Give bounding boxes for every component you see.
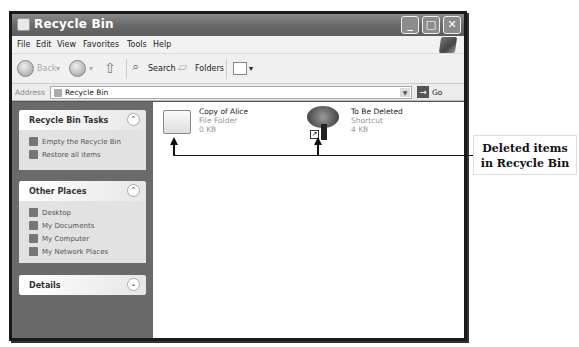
back-dropdown-icon[interactable]: ▾ <box>56 64 60 73</box>
panel-header[interactable]: Details ⌄ <box>19 275 146 295</box>
expand-chevron-icon[interactable]: ⌄ <box>127 278 140 291</box>
explorer-window: Recycle Bin _ □ ✕ File Edit View Favorit… <box>9 11 467 341</box>
restore-icon <box>29 150 38 159</box>
place-desktop[interactable]: Desktop <box>19 207 146 220</box>
menu-help[interactable]: Help <box>153 40 171 49</box>
task-restore-all-items[interactable]: Restore all items <box>19 149 146 162</box>
address-value: Recycle Bin <box>65 88 108 97</box>
annotation-line <box>173 155 473 156</box>
panel-title: Recycle Bin Tasks <box>29 116 108 125</box>
menu-favorites[interactable]: Favorites <box>83 40 119 49</box>
recycle-bin-icon <box>17 18 30 31</box>
item-name: To Be Deleted <box>351 107 403 116</box>
item-size: 4 KB <box>351 125 403 134</box>
toolbar-separator <box>126 59 127 79</box>
go-arrow-icon[interactable]: → <box>417 86 429 98</box>
annotation-arrow-icon <box>314 137 322 145</box>
annotation-arrow-icon <box>170 137 178 145</box>
folders-button[interactable]: Folders <box>195 64 224 73</box>
folders-icon[interactable]: ▱ <box>178 60 187 74</box>
computer-icon <box>29 234 38 243</box>
toolbar-separator <box>226 59 227 79</box>
toolbar: Back ▾ ▾ ⇧ ⌕ Search ▱ Folders ▾ <box>12 54 464 84</box>
windows-logo-icon <box>439 37 457 53</box>
panel-header[interactable]: Recycle Bin Tasks ⌃ <box>19 110 146 130</box>
address-label: Address <box>15 88 45 97</box>
folder-icon <box>163 110 191 134</box>
forward-button[interactable] <box>69 60 86 77</box>
search-icon[interactable]: ⌕ <box>132 59 139 75</box>
item-name: Copy of Alice <box>199 107 248 116</box>
callout-line-1: Deleted items <box>474 141 576 156</box>
documents-icon <box>29 221 38 230</box>
window-title: Recycle Bin <box>34 17 114 31</box>
place-my-documents[interactable]: My Documents <box>19 220 146 233</box>
address-dropdown-icon[interactable]: ▼ <box>400 88 410 97</box>
empty-bin-icon <box>29 137 38 146</box>
place-my-computer[interactable]: My Computer <box>19 233 146 246</box>
item-type: File Folder <box>199 116 248 125</box>
menu-file[interactable]: File <box>17 40 30 49</box>
maximize-button[interactable]: □ <box>422 16 440 34</box>
back-arrow-icon[interactable] <box>17 60 34 77</box>
annotation-callout: Deleted items in Recycle Bin <box>473 135 577 175</box>
address-bar: Address Recycle Bin ▼ → Go <box>12 84 464 101</box>
menu-edit[interactable]: Edit <box>36 40 52 49</box>
forward-dropdown-icon[interactable]: ▾ <box>89 64 93 73</box>
close-button[interactable]: ✕ <box>443 16 461 34</box>
recycle-bin-icon <box>54 89 62 97</box>
recycle-bin-tasks-panel: Recycle Bin Tasks ⌃ Empty the Recycle Bi… <box>19 110 146 170</box>
collapse-chevron-icon[interactable]: ⌃ <box>127 184 140 197</box>
menu-view[interactable]: View <box>57 40 76 49</box>
item-type: Shortcut <box>351 116 403 125</box>
title-bar[interactable]: Recycle Bin _ □ ✕ <box>12 14 464 36</box>
search-button[interactable]: Search <box>148 64 175 73</box>
address-input[interactable]: Recycle Bin ▼ <box>50 86 412 99</box>
up-folder-icon[interactable]: ⇧ <box>104 60 116 76</box>
menu-bar: File Edit View Favorites Tools Help <box>12 36 464 54</box>
panel-title: Other Places <box>29 187 86 196</box>
file-list: Copy of Alice File Folder 0 KB ↗ To Be D… <box>153 102 464 338</box>
other-places-panel: Other Places ⌃ Desktop My Documents My C… <box>19 181 146 263</box>
views-dropdown-icon[interactable]: ▾ <box>249 64 253 73</box>
go-button[interactable]: Go <box>432 88 442 97</box>
panel-header[interactable]: Other Places ⌃ <box>19 181 146 201</box>
minimize-button[interactable]: _ <box>401 16 419 34</box>
back-button[interactable]: Back <box>37 64 56 73</box>
callout-line-2: in Recycle Bin <box>474 156 576 171</box>
task-empty-recycle-bin[interactable]: Empty the Recycle Bin <box>19 136 146 149</box>
details-panel: Details ⌄ <box>19 275 146 295</box>
desktop-icon <box>29 208 38 217</box>
collapse-chevron-icon[interactable]: ⌃ <box>127 113 140 126</box>
panel-title: Details <box>29 281 61 290</box>
menu-tools[interactable]: Tools <box>127 40 147 49</box>
item-size: 0 KB <box>199 125 248 134</box>
task-pane: Recycle Bin Tasks ⌃ Empty the Recycle Bi… <box>12 102 153 338</box>
network-icon <box>29 247 38 256</box>
place-my-network-places[interactable]: My Network Places <box>19 246 146 259</box>
views-icon[interactable] <box>233 62 247 75</box>
